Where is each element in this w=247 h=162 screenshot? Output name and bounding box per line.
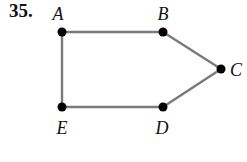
node-e [58,103,67,112]
node-label-a: A [52,4,65,24]
node-c [217,65,226,74]
node-label-d: D [155,118,169,138]
node-d [159,103,168,112]
graph-labels: ABCDE [52,4,244,138]
edge-b-c [163,32,221,69]
graph-edges [62,32,221,107]
graph-diagram: 35. ABCDE [0,0,247,162]
node-a [58,28,67,37]
node-label-b: B [158,4,169,24]
graph-nodes [58,28,226,112]
node-label-e: E [56,118,68,138]
node-b [159,28,168,37]
edge-c-d [163,69,221,107]
node-label-c: C [230,60,243,80]
problem-number: 35. [9,0,33,21]
